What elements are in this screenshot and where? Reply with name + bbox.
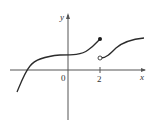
x-tick-label-2: 2 xyxy=(97,74,102,84)
curve-right-piece xyxy=(101,38,144,58)
y-axis-arrow-icon xyxy=(66,13,70,19)
closed-point xyxy=(98,37,102,41)
y-axis-label: y xyxy=(59,12,64,22)
origin-label: 0 xyxy=(61,73,66,83)
curve-left-piece xyxy=(17,39,100,92)
x-axis-label: x xyxy=(139,72,144,82)
function-graph: y x 0 2 xyxy=(0,0,154,127)
open-point xyxy=(98,56,102,60)
